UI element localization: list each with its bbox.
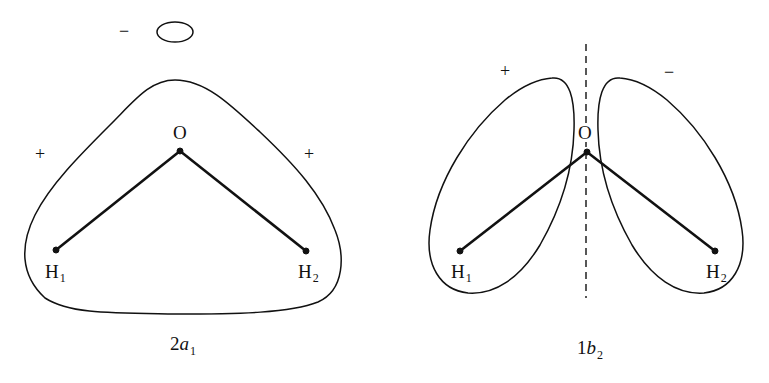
bond-o-h1: [56, 151, 180, 250]
molecule-1b2: [457, 149, 718, 254]
right-negative-lobe: [598, 78, 743, 293]
h2-label: H2: [298, 262, 319, 284]
caption-prefix: 1: [577, 337, 587, 358]
h2-symbol: H: [298, 261, 312, 282]
bond-o-h2: [180, 151, 306, 251]
h1-symbol: H: [451, 261, 465, 282]
panel-2a1-graphics: [25, 22, 341, 314]
oxygen-nucleus-dot: [584, 149, 590, 155]
caption-subscript: 2: [597, 348, 603, 362]
h1-symbol: H: [45, 261, 59, 282]
caption-subscript: 1: [190, 344, 196, 358]
small-negative-lobe: [157, 22, 193, 42]
sign-positive-left-lobe: +: [500, 62, 510, 80]
h2-nucleus-dot: [303, 248, 309, 254]
oxygen-label: O: [577, 123, 593, 142]
molecule-2a1: [53, 148, 309, 254]
oxygen-label: O: [173, 123, 187, 142]
h2-subscript: 2: [313, 271, 319, 285]
sign-negative-right-lobe: −: [664, 63, 674, 81]
h1-subscript: 1: [60, 271, 66, 285]
bond-o-h1: [460, 152, 587, 251]
caption-1b2: 1b2: [577, 338, 603, 361]
h2-symbol: H: [706, 261, 720, 282]
h1-label: H1: [451, 262, 472, 284]
caption-symbol: a: [180, 333, 190, 354]
sign-positive-right: +: [304, 145, 314, 163]
large-positive-lobe-contour: [25, 80, 341, 314]
sign-negative-small-lobe: −: [119, 22, 129, 40]
h2-subscript: 2: [721, 271, 727, 285]
caption-2a1: 2a1: [170, 334, 196, 357]
h1-label: H1: [45, 262, 66, 284]
caption-symbol: b: [587, 337, 597, 358]
h1-nucleus-dot: [457, 248, 463, 254]
bond-o-h2: [587, 152, 715, 251]
oxygen-nucleus-dot: [177, 148, 183, 154]
caption-prefix: 2: [170, 333, 180, 354]
h1-subscript: 1: [466, 271, 472, 285]
sign-positive-left: +: [35, 145, 45, 163]
h2-label: H2: [706, 262, 727, 284]
h2-nucleus-dot: [712, 248, 718, 254]
orbital-diagram-canvas: [0, 0, 769, 383]
h1-nucleus-dot: [53, 247, 59, 253]
